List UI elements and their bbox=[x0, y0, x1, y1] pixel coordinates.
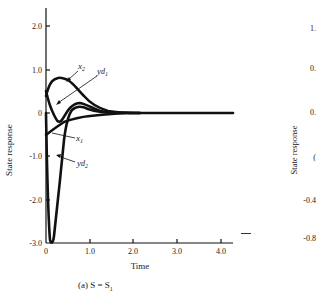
label-yd2: yd2 bbox=[76, 158, 88, 169]
label-yd1: yd1 bbox=[96, 66, 108, 77]
arrow-head-icon bbox=[56, 100, 61, 105]
x-tick-label: 2.0 bbox=[128, 247, 138, 256]
y-tick-label: -1.0 bbox=[29, 152, 42, 161]
caption-main: S = S bbox=[90, 280, 110, 290]
leader-yd2 bbox=[58, 156, 75, 162]
caption-prefix: (a) bbox=[78, 280, 88, 290]
chart-b-y-tick: 0. bbox=[310, 64, 316, 73]
chart-b-y-tick: 0. bbox=[310, 108, 316, 117]
x-tick-label: 4.0 bbox=[216, 247, 226, 256]
curve-x1 bbox=[46, 113, 125, 135]
leader-yd1 bbox=[58, 76, 97, 103]
chart-b-partial: State response 1. 0. 0. ( -0.4 -0.8 bbox=[246, 0, 316, 299]
y-tick-label: 1.0 bbox=[32, 66, 42, 75]
y-tick-label: 2.0 bbox=[32, 22, 42, 31]
chart-b-y-tick: -0.8 bbox=[303, 234, 316, 243]
x-tick-label: 3.0 bbox=[172, 247, 182, 256]
chart-b-y-axis-title: State response bbox=[289, 126, 299, 175]
chart-b-y-tick: 1. bbox=[310, 24, 316, 33]
y-tick-label: -2.0 bbox=[29, 196, 42, 205]
label-x1: x1 bbox=[75, 133, 83, 144]
state-response-chart-a: 2.0 1.0 0 -1.0 -2.0 -3.0 0 1.0 2.0 3.0 4… bbox=[0, 0, 246, 299]
y-tick-label: -3.0 bbox=[29, 239, 42, 248]
caption-subscript: 1 bbox=[110, 286, 113, 292]
curve-yd1 bbox=[46, 91, 140, 122]
chart-b-y-tick: -0.4 bbox=[303, 196, 316, 205]
arrow-head-icon bbox=[56, 154, 61, 158]
x-ticks: 0 1.0 2.0 3.0 4.0 bbox=[44, 239, 226, 256]
x-axis-title: Time bbox=[131, 261, 150, 271]
x-tick-label: 0 bbox=[44, 247, 48, 256]
y-axis-title: State response bbox=[4, 124, 14, 176]
x-tick-label: 1.0 bbox=[85, 247, 95, 256]
figure-caption: (a) S = S1 bbox=[78, 280, 113, 292]
chart-b-y-tick: ( bbox=[313, 153, 316, 162]
y-tick-label: 0 bbox=[38, 109, 42, 118]
label-x2: x2 bbox=[77, 61, 85, 72]
